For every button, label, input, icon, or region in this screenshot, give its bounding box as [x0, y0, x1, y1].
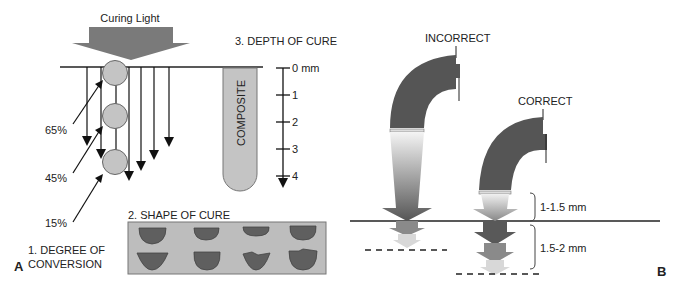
conversion-65: 65%	[45, 124, 67, 136]
scale-tick-1: 1	[292, 89, 298, 101]
shape-of-cure-title: 2. SHAPE OF CURE	[128, 209, 230, 221]
distance-label: 1-1.5 mm	[540, 201, 586, 213]
incorrect-label: INCORRECT	[425, 32, 491, 44]
scale-tick-4: 4	[292, 170, 298, 182]
conversion-15: 15%	[45, 217, 67, 229]
correct-beam-icon	[473, 194, 518, 221]
depth-of-cure-title: 3. DEPTH OF CURE	[235, 35, 337, 47]
panel-b-label: B	[657, 264, 666, 279]
panel-a: Curing Light 65% 45% 15% 1. DEGRE	[14, 12, 337, 274]
depth-scale	[276, 68, 290, 188]
panel-a-label: A	[14, 259, 24, 274]
degree-of-conversion-line1: 1. DEGREE OF	[28, 244, 105, 256]
scale-tick-2: 2	[292, 116, 298, 128]
conversion-circles	[103, 61, 128, 175]
correct-light-guide	[479, 117, 547, 190]
curing-light-label: Curing Light	[100, 12, 159, 24]
scale-tick-3: 3	[292, 143, 298, 155]
degree-of-conversion-line2: CONVERSION	[28, 258, 102, 270]
depth-of-cure-diagram: Curing Light 65% 45% 15% 1. DEGRE	[0, 0, 674, 291]
curing-light-arrow-icon	[72, 27, 190, 60]
depth-label: 1.5-2 mm	[540, 242, 586, 254]
conversion-45: 45%	[45, 172, 67, 184]
incorrect-beam-icon	[382, 132, 432, 221]
depth-brace	[530, 225, 535, 269]
scale-tick-0: 0 mm	[292, 62, 320, 74]
distance-brace	[530, 193, 535, 221]
panel-b: INCORRECT CORRECT 1-1.5 mm 1.5-2 mm B	[350, 32, 666, 279]
correct-label: CORRECT	[518, 95, 573, 107]
incorrect-light-guide	[390, 55, 460, 128]
composite-label: COMPOSITE	[235, 80, 247, 146]
